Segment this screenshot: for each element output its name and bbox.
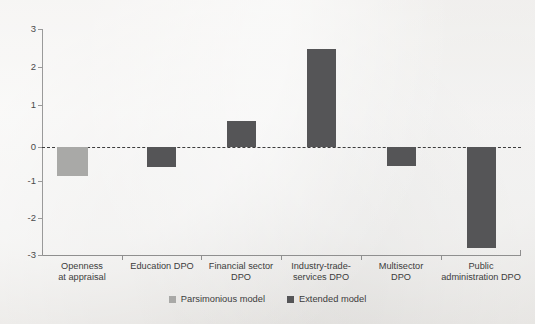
y-tick-label-3: 3 [12, 24, 36, 34]
legend-item-extended-model: Extended model [287, 294, 366, 304]
y-tick-label-1: 1 [12, 100, 36, 110]
x-axis-endcap-left [42, 250, 43, 255]
x-category-label-public-administration-line1: Public [438, 261, 524, 272]
bar-multisector-dpo [387, 147, 416, 166]
y-tick-mark-1 [38, 105, 43, 106]
x-category-label-openness: Openness at appraisal [42, 261, 122, 282]
bar-financial-sector-dpo [227, 121, 256, 147]
x-category-label-industry-trade-services-line2: services DPO [281, 272, 361, 283]
x-category-label-education: Education DPO [122, 261, 202, 272]
x-axis-separator-5 [441, 255, 442, 260]
legend-label-extended-model: Extended model [299, 294, 366, 304]
bar-education-dpo [147, 147, 176, 167]
x-category-label-financial-sector: Financial sector DPO [201, 261, 281, 282]
x-category-label-financial-sector-line1: Financial sector [201, 261, 281, 272]
x-category-label-openness-line2: at appraisal [42, 272, 122, 283]
x-axis-separator-3 [281, 255, 282, 260]
legend-swatch-icon-extended [287, 296, 294, 303]
y-tick-label-neg1: -1 [12, 176, 36, 186]
bar-chart: 3 2 1 0 -1 -2 -3 Openness at appraisal E… [0, 0, 535, 324]
x-category-label-public-administration: Public administration DPO [438, 261, 524, 282]
bar-industry-trade-services-dpo [307, 49, 336, 147]
x-axis-separator-2 [201, 255, 202, 260]
y-tick-label-2: 2 [12, 62, 36, 72]
y-tick-mark-neg3 [38, 255, 43, 256]
y-axis-line [42, 29, 43, 256]
x-axis-separator-4 [361, 255, 362, 260]
zero-reference-line [42, 147, 521, 148]
x-category-label-openness-line1: Openness [42, 261, 122, 272]
legend-swatch-icon-parsimonious [169, 296, 176, 303]
bar-public-administration-dpo [467, 147, 496, 248]
chart-legend: Parsimonious model Extended model [0, 294, 535, 304]
x-category-label-education-line1: Education DPO [122, 261, 202, 272]
x-category-label-industry-trade-services-line1: Industry-trade- [281, 261, 361, 272]
y-tick-label-0: 0 [12, 142, 36, 152]
y-tick-mark-3 [38, 29, 43, 30]
y-tick-label-neg3: -3 [12, 250, 36, 260]
x-category-label-multisector: Multisector DPO [361, 261, 441, 282]
y-tick-mark-2 [38, 67, 43, 68]
x-axis-endcap-right [520, 250, 521, 255]
legend-label-parsimonious-model: Parsimonious model [181, 294, 265, 304]
y-tick-label-neg2: -2 [12, 213, 36, 223]
y-tick-mark-neg1 [38, 181, 43, 182]
x-category-label-financial-sector-line2: DPO [201, 272, 281, 283]
legend-item-parsimonious-model: Parsimonious model [169, 294, 265, 304]
x-category-label-multisector-line1: Multisector [361, 261, 441, 272]
x-axis-separator-1 [122, 255, 123, 260]
x-category-label-industry-trade-services: Industry-trade- services DPO [281, 261, 361, 282]
bar-openness-at-appraisal [57, 147, 88, 176]
x-category-label-public-administration-line2: administration DPO [438, 272, 524, 283]
y-tick-mark-neg2 [38, 218, 43, 219]
x-category-label-multisector-line2: DPO [361, 272, 441, 283]
